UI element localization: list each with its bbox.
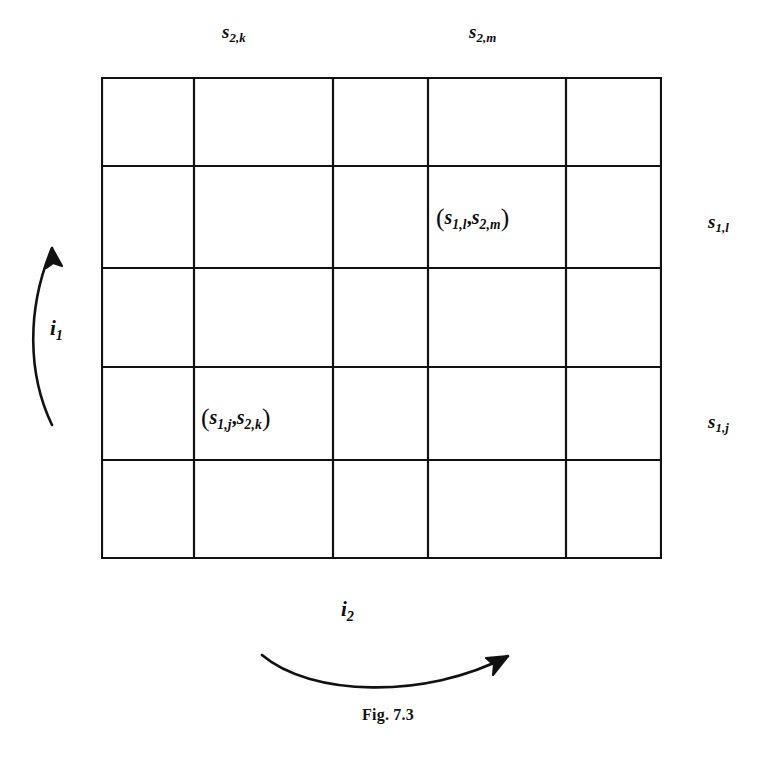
cell-label-s1l-s2m-close: ) bbox=[501, 203, 510, 232]
right-label-s1j-sub1: 1, bbox=[715, 420, 725, 435]
cell-label-s1j-s2k-open: ( bbox=[201, 403, 210, 432]
top-label-s2m-sub1: 2, bbox=[476, 30, 486, 45]
cell-label-s1l-s2m-a-sub1: 1, bbox=[452, 217, 462, 232]
arrow-label-i2: i2 bbox=[341, 599, 354, 623]
top-label-s2k: s2,k bbox=[222, 22, 246, 45]
cell-label-s1j-s2k-a-sub1: 1, bbox=[217, 417, 227, 432]
right-label-s1j-sub2: j bbox=[725, 420, 729, 435]
top-label-s2m-sub2: m bbox=[486, 30, 496, 45]
arrow-i2-right-icon bbox=[250, 630, 530, 700]
right-label-s1l: s1,l bbox=[708, 212, 729, 235]
right-label-s1l-sub2: l bbox=[725, 220, 729, 235]
cell-label-s1j-s2k-b-sub1: 2, bbox=[245, 417, 255, 432]
cell-label-s1j-s2k-b-sub2: k bbox=[255, 417, 262, 432]
right-label-s1j: s1,j bbox=[708, 412, 729, 435]
top-label-s2k-sub2: k bbox=[239, 30, 246, 45]
top-label-s2k-sub1: 2, bbox=[229, 30, 239, 45]
arrow-label-i1: i1 bbox=[50, 318, 63, 342]
arrow-label-i2-sub: 2 bbox=[347, 608, 354, 624]
right-label-s1l-sub1: 1, bbox=[715, 220, 725, 235]
grid-lines bbox=[101, 77, 662, 559]
cell-label-s1j-s2k-close: ) bbox=[262, 403, 271, 432]
top-label-s2m: s2,m bbox=[469, 22, 497, 45]
figure-caption: Fig. 7.3 bbox=[0, 706, 776, 724]
cell-label-s1j-s2k: (s1,j,s2,k) bbox=[201, 405, 270, 431]
cell-label-s1l-s2m-b-sub1: 2, bbox=[480, 217, 490, 232]
cell-label-s1l-s2m-open: ( bbox=[436, 203, 445, 232]
arrow-label-i1-sub: 1 bbox=[56, 327, 63, 343]
cell-label-s1l-s2m-b-base: s bbox=[472, 206, 480, 228]
cell-label-s1j-s2k-b-base: s bbox=[237, 406, 245, 428]
arrow-i1-up-icon bbox=[20, 200, 130, 430]
grid-container bbox=[101, 77, 662, 559]
figure-page: s2,k s2,m (s1,l bbox=[0, 0, 776, 760]
cell-label-s1l-s2m-b-sub2: m bbox=[490, 217, 501, 232]
cell-label-s1l-s2m: (s1,l,s2,m) bbox=[436, 205, 509, 231]
